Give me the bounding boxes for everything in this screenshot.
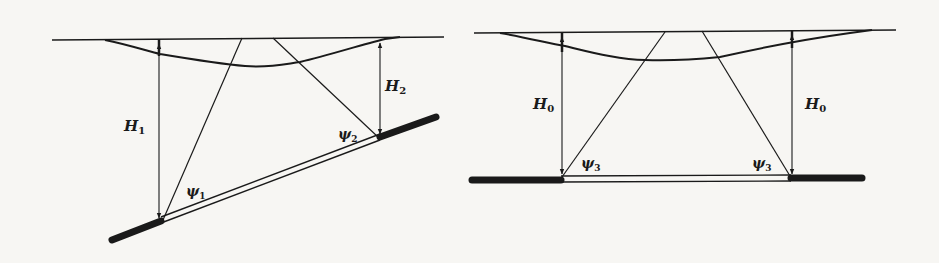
mined-panel-bottom — [561, 181, 791, 182]
subsidence-diagram: H1 H2 ψ1 ψ2 — [0, 0, 939, 263]
label-h0-left: H0 — [532, 95, 554, 114]
label-h1: H1 — [123, 117, 145, 136]
panel-inclined-bed: H1 H2 ψ1 ψ2 — [52, 37, 444, 240]
label-h2: H2 — [384, 77, 406, 96]
mined-panel-bottom — [161, 140, 380, 223]
label-psi2: ψ2 — [338, 126, 357, 144]
label-psi3-right: ψ3 — [752, 155, 771, 173]
mined-panel-top — [161, 134, 380, 217]
draw-line-right — [273, 38, 378, 137]
ground-surface-line — [474, 30, 896, 33]
bed-thick-right — [380, 117, 436, 137]
label-psi3-left: ψ3 — [581, 155, 600, 173]
mined-panel-top — [561, 175, 791, 176]
bed-thick-left — [112, 221, 161, 240]
label-psi1: ψ1 — [186, 183, 205, 201]
draw-line-left — [562, 32, 665, 177]
label-h0-right: H0 — [804, 95, 826, 114]
draw-line-right — [702, 31, 790, 176]
subsidence-trough-curve — [105, 37, 400, 67]
subsidence-trough-curve — [500, 30, 872, 60]
panel-horizontal-bed: H0 H0 ψ3 ψ3 — [472, 30, 896, 182]
